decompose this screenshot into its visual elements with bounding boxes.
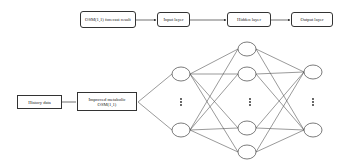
hidden-layer-box: Hidden layer bbox=[227, 12, 271, 27]
output-node bbox=[304, 123, 322, 137]
hidden-output-edges bbox=[256, 49, 304, 152]
input-layer-box: Input layer bbox=[157, 12, 190, 27]
hidden-node bbox=[238, 121, 256, 135]
feed-lines bbox=[138, 74, 172, 130]
output-layer-box: Output layer bbox=[291, 12, 333, 27]
history-data-box: History data bbox=[17, 95, 62, 109]
input-node bbox=[172, 67, 190, 81]
output-node bbox=[304, 65, 322, 79]
osm-forecast-result-box: OSM(1,1) forecast result bbox=[80, 11, 136, 28]
hidden-node bbox=[238, 145, 256, 159]
improved-osm-box: Improved metabolic OSM(1,1) bbox=[77, 92, 137, 111]
hidden-node bbox=[238, 42, 256, 56]
ellipsis-dots bbox=[180, 98, 314, 106]
input-node bbox=[172, 123, 190, 137]
hidden-node bbox=[238, 67, 256, 81]
input-hidden-edges bbox=[190, 49, 238, 152]
